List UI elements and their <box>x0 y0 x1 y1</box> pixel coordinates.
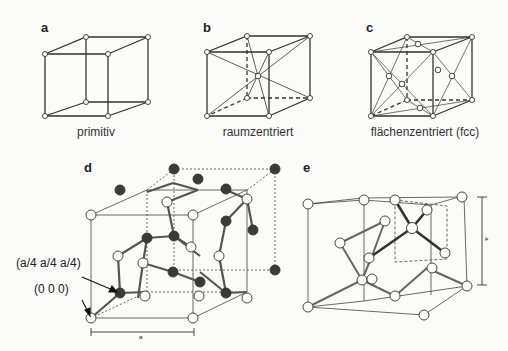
panel-label-e: e <box>303 160 310 175</box>
annotation-quarter-position: (a/4 a/4 a/4) <box>16 256 81 270</box>
panel-label-d: d <box>84 160 92 175</box>
primitive-atoms <box>43 35 151 119</box>
dimension-bar-d <box>91 328 194 336</box>
dimension-label-d: a <box>139 334 142 340</box>
annotation-origin: (0 0 0) <box>34 282 69 296</box>
caption-fcc: flächenzentriert (fcc) <box>355 125 495 139</box>
caption-primitive: primitiv <box>46 125 146 139</box>
panel-label-c: c <box>366 20 373 35</box>
dimension-label-e: a <box>484 237 490 240</box>
lattice-figure <box>0 0 508 351</box>
panel-label-b: b <box>203 20 211 35</box>
dimension-bar-e <box>477 197 487 285</box>
panel-label-a: a <box>41 20 48 35</box>
caption-bcc: raumzentriert <box>208 125 308 139</box>
cube-primitive <box>45 37 148 116</box>
